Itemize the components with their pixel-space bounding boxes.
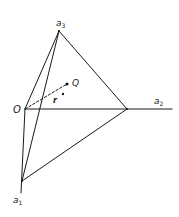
edge-a1-a2 <box>22 109 127 181</box>
label-r-star: r <box>53 96 58 105</box>
label-q: Q <box>72 78 79 88</box>
point-r-star-dot <box>62 93 64 95</box>
edge-a3-a2 <box>59 31 127 109</box>
label-a3: a3 <box>56 18 66 29</box>
vertex-a2-dot <box>126 108 128 110</box>
vertex-a3-dot <box>58 30 60 32</box>
label-a2: a2 <box>154 96 164 107</box>
vertex-a1-dot <box>21 180 23 182</box>
point-q-dot <box>65 82 68 85</box>
dashed-line-o-q <box>25 84 67 109</box>
label-a1: a1 <box>13 195 23 206</box>
tetrahedron-diagram: a3 a2 a1 O Q r <box>0 0 179 217</box>
label-origin: O <box>13 104 21 115</box>
edge-a3-a1 <box>22 31 59 181</box>
